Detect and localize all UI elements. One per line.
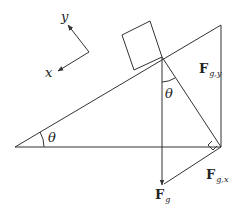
diagram-svg [0,0,234,214]
block [122,21,162,70]
gravity-label: Fg [155,188,170,204]
gravity-y-label: Fg,y [199,62,221,78]
x-axis-arrow [58,52,89,71]
y-axis-label: y [61,10,68,23]
incline-surface [15,25,221,147]
incline-angle-label: θ [48,131,56,144]
incline-angle-arc [40,132,44,147]
force-angle-arc [162,78,175,82]
incline-diagram: y x θ θ Fg,y Fg,x Fg [0,0,234,214]
force-angle-label: θ [165,87,173,100]
y-axis-arrow [68,25,89,52]
right-angle-marker [208,141,217,150]
gravity-x-label: Fg,x [206,168,228,184]
x-axis-label: x [45,66,52,79]
